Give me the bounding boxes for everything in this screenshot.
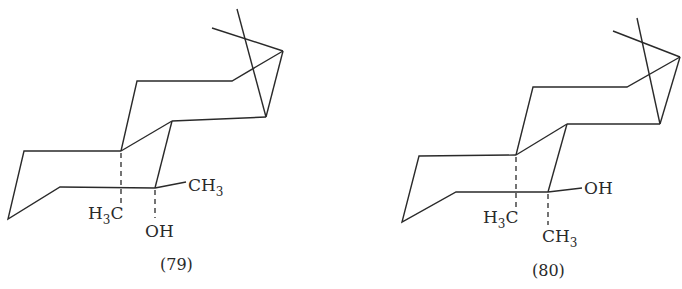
structure-79: CH3 H3C OH (79) xyxy=(8,9,283,274)
ring-a-bonds xyxy=(8,151,155,219)
ring-skeleton-80 xyxy=(402,18,680,222)
caption-80: (80) xyxy=(532,261,565,280)
bond-to-ch3-79 xyxy=(155,182,186,188)
bond-cyclopropane xyxy=(266,51,283,117)
bond-to-oh-80 xyxy=(548,188,582,192)
caption-79: (79) xyxy=(160,255,193,274)
label-ch3-79: CH3 xyxy=(188,175,223,199)
bond-lower-right xyxy=(172,117,266,121)
structure-80: OH H3C CH3 (80) xyxy=(402,18,680,280)
figure-canvas: CH3 H3C OH (79) OH H3C CH3 (80) xyxy=(0,0,682,289)
label-oh-79: OH xyxy=(145,221,174,241)
ring-a-bonds xyxy=(402,155,548,222)
ring-skeleton-79 xyxy=(8,9,283,219)
bond-c10-c9 xyxy=(121,121,172,151)
label-oh-80: OH xyxy=(584,178,613,198)
label-h3c-80: H3C xyxy=(483,207,518,231)
label-ch3-80: CH3 xyxy=(542,226,577,250)
bond-c9-c4 xyxy=(155,121,172,188)
label-h3c-79: H3C xyxy=(88,203,123,227)
bond-methyl-short xyxy=(613,31,680,57)
